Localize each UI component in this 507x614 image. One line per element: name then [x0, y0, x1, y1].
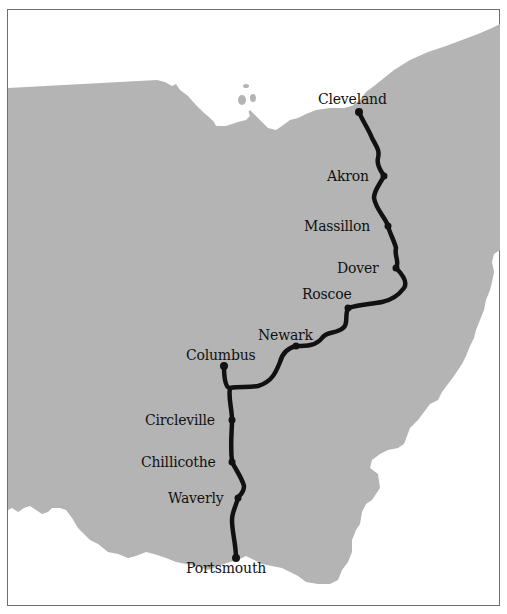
label-roscoe: Roscoe	[302, 287, 352, 301]
marker-columbus[interactable]	[220, 362, 228, 370]
label-circleville: Circleville	[145, 413, 215, 427]
marker-roscoe[interactable]	[345, 305, 352, 312]
label-portsmouth: Portsmouth	[186, 561, 266, 575]
ohio-map	[0, 0, 507, 614]
ohio-land-shape	[8, 24, 500, 584]
marker-cleveland[interactable]	[355, 108, 363, 116]
small-island	[243, 84, 249, 88]
label-columbus: Columbus	[186, 348, 255, 362]
marker-dover[interactable]	[393, 265, 400, 272]
marker-circleville[interactable]	[229, 417, 236, 424]
label-dover: Dover	[337, 261, 379, 275]
marker-waverly[interactable]	[235, 495, 242, 502]
marker-massillon[interactable]	[385, 223, 392, 230]
bass-island	[250, 94, 256, 102]
label-waverly: Waverly	[168, 491, 223, 505]
kelleys-island	[238, 95, 246, 105]
label-newark: Newark	[258, 328, 313, 342]
label-cleveland: Cleveland	[318, 92, 387, 106]
label-akron: Akron	[327, 169, 369, 183]
label-massillon: Massillon	[304, 219, 370, 233]
label-chillicothe: Chillicothe	[141, 455, 216, 469]
marker-chillicothe[interactable]	[229, 459, 236, 466]
marker-newark[interactable]	[293, 343, 300, 350]
marker-akron[interactable]	[381, 173, 388, 180]
